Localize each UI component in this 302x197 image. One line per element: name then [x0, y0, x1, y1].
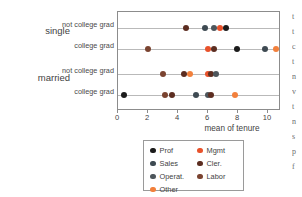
- page-text-fragment: t: [292, 57, 301, 66]
- page-text-fragment: c: [292, 42, 301, 51]
- legend-item-label: Operat.: [160, 173, 185, 180]
- plot-area: [117, 11, 280, 110]
- page-text-fragment: t: [292, 12, 301, 21]
- x-axis-tick-label: 0: [115, 113, 119, 122]
- legend-item-cler[interactable]: Cler.: [197, 158, 238, 169]
- legend-swatch-dot-icon: [197, 161, 203, 167]
- category-label-single-not-college-grad: not college grad: [18, 20, 114, 29]
- legend-swatch-dot-icon: [150, 161, 156, 167]
- legend-swatch-dot-icon: [197, 174, 203, 180]
- legend-item-operat[interactable]: Operat.: [150, 171, 191, 182]
- data-point: [145, 46, 151, 52]
- legend-item-label: Other: [160, 186, 178, 193]
- legend: ProfSalesOperat.OtherMgmtCler.Labor: [143, 140, 244, 191]
- data-point: [234, 46, 240, 52]
- data-point: [193, 92, 199, 98]
- row-gridline: [118, 28, 279, 29]
- data-point: [121, 92, 127, 98]
- page-text-fragment: s: [292, 132, 301, 141]
- page-text-fragment: p: [292, 147, 301, 156]
- x-axis-tick-label: 2: [145, 113, 149, 122]
- page-text-fragment: n: [292, 72, 301, 81]
- legend-item-label: Mgmt: [207, 147, 225, 154]
- data-point: [223, 25, 229, 31]
- legend-swatch-dot-icon: [150, 187, 156, 193]
- legend-item-label: Labor: [207, 173, 226, 180]
- data-point: [187, 71, 193, 77]
- data-point: [211, 46, 217, 52]
- row-gridline: [118, 49, 279, 50]
- legend-item-other[interactable]: Other: [150, 184, 191, 195]
- legend-item-label: Cler.: [207, 160, 222, 167]
- data-point: [160, 71, 166, 77]
- data-point: [169, 92, 175, 98]
- legend-item-labor[interactable]: Labor: [197, 171, 238, 182]
- data-point: [262, 46, 268, 52]
- x-axis-title-text: mean of tenure: [204, 124, 259, 133]
- legend-item-sales[interactable]: Sales: [150, 158, 191, 169]
- legend-swatch-dot-icon: [150, 148, 156, 154]
- page-text-fragment: f: [292, 162, 301, 171]
- category-label-married-not-college-grad: not college grad: [18, 66, 114, 75]
- data-point: [162, 92, 168, 98]
- category-label-married-college-grad: college grad: [18, 87, 114, 96]
- x-axis-tick-label: 4: [175, 113, 179, 122]
- legend-item-prof[interactable]: Prof: [150, 145, 191, 156]
- legend-item-label: Sales: [160, 160, 179, 167]
- page-text-fragment: t: [292, 102, 301, 111]
- x-axis-tick-label: 8: [235, 113, 239, 122]
- page-text-fragment: n: [292, 117, 301, 126]
- row-gridline: [118, 74, 279, 75]
- data-point: [213, 71, 219, 77]
- x-axis-tick-label: 6: [205, 113, 209, 122]
- category-label-single-college-grad: college grad: [18, 41, 114, 50]
- data-point: [232, 92, 238, 98]
- page-text-fragment: v: [292, 87, 301, 96]
- data-point: [273, 46, 279, 52]
- x-axis-title: mean of tenure: [0, 124, 302, 133]
- legend-item-label: Prof: [160, 147, 174, 154]
- data-point: [183, 25, 189, 31]
- data-point: [208, 92, 214, 98]
- legend-column: MgmtCler.Labor: [197, 145, 238, 195]
- page-text-fragment: t: [292, 27, 301, 36]
- x-axis-tick-label: 10: [263, 113, 271, 122]
- legend-column: ProfSalesOperat.Other: [150, 145, 191, 195]
- legend-swatch-dot-icon: [150, 174, 156, 180]
- data-point: [202, 25, 208, 31]
- legend-swatch-dot-icon: [197, 148, 203, 154]
- legend-item-mgmt[interactable]: Mgmt: [197, 145, 238, 156]
